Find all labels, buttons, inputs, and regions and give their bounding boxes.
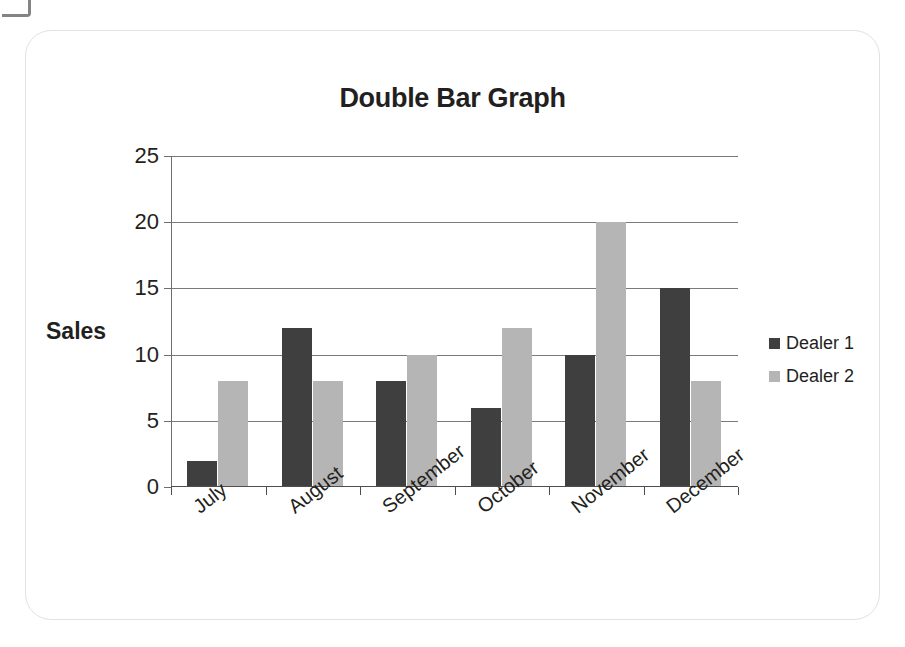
bars-layer xyxy=(171,156,738,487)
bar-september-dealer-1[interactable] xyxy=(376,381,406,487)
bar-group xyxy=(360,156,455,487)
y-tick-mark xyxy=(164,222,171,223)
legend-swatch-icon xyxy=(769,338,780,349)
y-tick-mark xyxy=(164,421,171,422)
chart-card: Double Bar Graph Sales 0510152025 JulyAu… xyxy=(25,30,880,620)
chart-title: Double Bar Graph xyxy=(26,83,879,114)
y-tick-mark xyxy=(164,355,171,356)
bar-october-dealer-1[interactable] xyxy=(471,408,501,487)
y-tick-label: 15 xyxy=(135,275,159,301)
y-tick-label: 5 xyxy=(147,408,159,434)
bar-group xyxy=(549,156,644,487)
legend-swatch-icon xyxy=(769,371,780,382)
x-tick-mark xyxy=(455,487,456,495)
x-tick-mark xyxy=(738,487,739,495)
y-tick-mark xyxy=(164,487,171,488)
bar-november-dealer-2[interactable] xyxy=(596,222,626,487)
bar-group xyxy=(455,156,550,487)
x-tick-mark xyxy=(266,487,267,495)
legend-item-dealer-2[interactable]: Dealer 2 xyxy=(769,366,854,387)
bar-august-dealer-1[interactable] xyxy=(282,328,312,487)
bar-group xyxy=(266,156,361,487)
y-tick-mark xyxy=(164,288,171,289)
legend-item-dealer-1[interactable]: Dealer 1 xyxy=(769,333,854,354)
bar-group xyxy=(171,156,266,487)
y-tick-label: 20 xyxy=(135,209,159,235)
legend-label: Dealer 1 xyxy=(786,333,854,354)
x-tick-mark xyxy=(549,487,550,495)
plot-area: 0510152025 JulyAugustSeptemberOctoberNov… xyxy=(171,156,738,487)
y-tick-label: 10 xyxy=(135,342,159,368)
bar-july-dealer-2[interactable] xyxy=(218,381,248,487)
bar-november-dealer-1[interactable] xyxy=(565,355,595,487)
legend-label: Dealer 2 xyxy=(786,366,854,387)
y-tick-label: 25 xyxy=(135,143,159,169)
scan-corner-artifact xyxy=(2,0,31,17)
legend: Dealer 1Dealer 2 xyxy=(769,333,854,387)
y-axis-title: Sales xyxy=(46,318,106,345)
y-tick-mark xyxy=(164,156,171,157)
bar-december-dealer-1[interactable] xyxy=(660,288,690,487)
x-tick-mark xyxy=(644,487,645,495)
x-tick-mark xyxy=(360,487,361,495)
bar-group xyxy=(644,156,739,487)
x-tick-mark xyxy=(171,487,172,495)
y-tick-label: 0 xyxy=(147,474,159,500)
